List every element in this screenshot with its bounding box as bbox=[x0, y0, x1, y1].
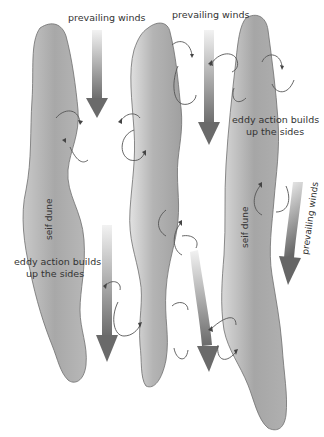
label-prevailing-winds-diagonal: prevailing winds bbox=[300, 181, 320, 255]
wind-arrow-top-right bbox=[198, 30, 220, 145]
label-seif-dune-right: seif dune bbox=[240, 206, 250, 248]
label-seif-dune-left: seif dune bbox=[44, 198, 54, 240]
wind-arrow-lower-middle bbox=[190, 250, 219, 372]
seif-dune-diagram: prevailing winds prevailing winds eddy a… bbox=[0, 0, 324, 437]
seif-dune-middle bbox=[130, 23, 182, 387]
wind-arrow-lower-left bbox=[96, 225, 118, 362]
seif-dune-right bbox=[222, 15, 287, 429]
label-eddy-action-right-line2: up the sides bbox=[246, 126, 304, 137]
label-eddy-action-right-line1: eddy action builds bbox=[232, 114, 319, 125]
wind-arrow-top-left bbox=[86, 30, 108, 118]
wind-arrow-diagonal bbox=[279, 182, 303, 285]
label-prevailing-winds-top-right: prevailing winds bbox=[172, 9, 249, 20]
seif-dune-left bbox=[23, 24, 86, 382]
label-eddy-action-left-line1: eddy action builds bbox=[14, 256, 101, 267]
label-prevailing-winds-top-left: prevailing winds bbox=[68, 12, 145, 23]
label-eddy-action-left-line2: up the sides bbox=[26, 268, 84, 279]
